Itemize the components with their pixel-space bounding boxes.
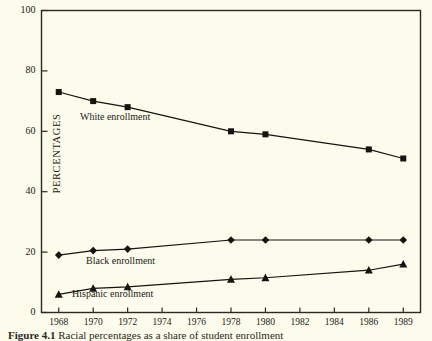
y-axis-tick-label: 40: [8, 185, 36, 196]
data-point-marker: [399, 236, 407, 244]
series-line: [59, 92, 404, 158]
figure-caption-label: Figure 4.1: [8, 329, 55, 341]
y-axis-tick-label: 0: [8, 306, 36, 317]
data-point-marker: [365, 236, 373, 244]
x-axis-tick-label: 1989: [383, 317, 423, 327]
data-point-marker: [400, 155, 406, 161]
data-point-marker: [228, 128, 234, 134]
y-axis-tick-label: 60: [8, 125, 36, 136]
plot-frame: [42, 11, 421, 313]
data-point-marker: [366, 146, 372, 152]
y-axis-tick-label: 20: [8, 246, 36, 257]
series-label: Black enrollment: [86, 255, 155, 266]
data-point-marker: [399, 260, 407, 268]
data-point-marker: [227, 236, 235, 244]
data-point-marker: [89, 247, 97, 255]
data-point-marker: [262, 131, 268, 137]
data-point-marker: [262, 236, 270, 244]
y-axis-title: PERCENTAGES: [51, 54, 62, 254]
series-label: White enrollment: [80, 111, 150, 122]
figure-caption-text: Racial percentages as a share of student…: [58, 329, 283, 341]
y-axis-tick-label: 80: [8, 64, 36, 75]
series-label: Hispanic enrollment: [72, 288, 153, 299]
data-point-marker: [124, 245, 132, 253]
data-point-marker: [125, 104, 131, 110]
figure-caption: Figure 4.1 Racial percentages as a share…: [8, 329, 283, 341]
y-axis-tick-label: 100: [8, 4, 36, 15]
data-point-marker: [90, 98, 96, 104]
